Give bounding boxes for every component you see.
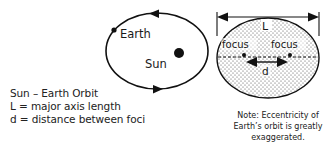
distance-label: d: [262, 65, 269, 77]
sun-dot: [174, 48, 184, 58]
sun-earth-orbit: Earth Sun: [106, 10, 208, 94]
legend: Sun – Earth Orbit L = major axis length …: [10, 87, 145, 126]
sun-label: Sun: [145, 57, 167, 71]
focus-label-left: focus: [222, 39, 249, 50]
earth-label: Earth: [120, 27, 151, 41]
earth-dot: [111, 27, 116, 32]
ellipse-geometry: L focus focus d: [217, 12, 319, 98]
focus-point-left: [242, 53, 246, 57]
note-line-1: Note: Eccentricity of: [228, 110, 328, 121]
focus-label-right: focus: [271, 39, 298, 50]
legend-major-axis: L = major axis length: [10, 100, 145, 113]
major-axis-label: L: [262, 20, 269, 33]
note-line-3: exaggerated.: [228, 132, 328, 143]
legend-title: Sun – Earth Orbit: [10, 87, 145, 100]
note-line-2: Earth’s orbit is greatly: [228, 121, 328, 132]
orbit-arrow-top-icon: [149, 10, 159, 19]
orbit-ellipse: [106, 13, 208, 89]
arrow-left-icon: [217, 13, 228, 22]
focus-point-right: [288, 53, 292, 57]
note: Note: Eccentricity of Earth’s orbit is g…: [228, 110, 328, 143]
arrow-right-icon: [308, 13, 319, 22]
legend-foci-distance: d = distance between foci: [10, 113, 145, 126]
orbit-arrow-bottom-icon: [153, 85, 163, 94]
